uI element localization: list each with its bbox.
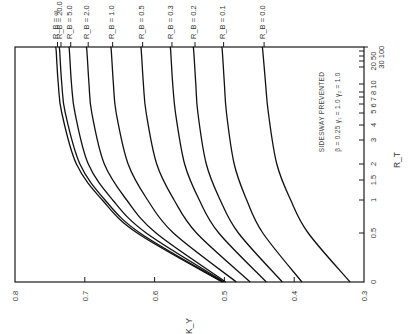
ky-tick-label: 0.8 [11, 291, 20, 301]
ky-axis: 0.30.40.50.60.70.8 [11, 277, 369, 301]
rt-tick-label: 0 [369, 280, 378, 284]
rt-tick-label: 0.5 [369, 228, 378, 238]
ky-tick-label: 0.3 [360, 291, 369, 301]
chart: 0.30.40.50.60.70.8 00.511.52345 6 7 8 10… [0, 0, 418, 334]
annotation-line2: β = 0.25 γ₁ = 1.0 γ₂ = 1.0 [334, 72, 342, 151]
rt-tick-label: 1.5 [369, 175, 378, 185]
rt-tick-label: 1 [369, 198, 378, 202]
curve-r-b-2-0 [86, 47, 226, 282]
curve-label: R_B = 0.0 [258, 5, 267, 39]
y-axis-title: K_Y [184, 318, 194, 334]
ky-tick-label: 0.6 [151, 291, 160, 301]
curve-label: R_B = 20.0 [55, 1, 64, 39]
rt-tick-label: 30 100 [377, 46, 386, 69]
curve-label: R_B = 0.5 [137, 5, 146, 39]
curves [56, 47, 351, 282]
curve-label: R_B = 0.3 [166, 5, 175, 39]
rt-tick-label: 5 6 7 8 10 [369, 80, 378, 113]
x-axis-title: R_T [392, 152, 402, 168]
annotation: SIDESWAY PREVENTED β = 0.25 γ₁ = 1.0 γ₂ … [318, 72, 342, 152]
curve-label: R_B = 2.0 [82, 5, 91, 39]
curve-label: R_B = 0.1 [218, 5, 227, 39]
rt-tick-label: 3 [369, 138, 378, 142]
curve-r-b-0-3 [170, 47, 266, 282]
curve-r-b-0-2 [193, 47, 282, 282]
curve-label: R_B = 5.0 [65, 5, 74, 39]
ky-tick-label: 0.7 [81, 291, 90, 301]
curve-r-b-5-0 [69, 47, 225, 282]
ky-tick-label: 0.5 [220, 291, 229, 301]
rt-tick-label: 2 [369, 162, 378, 166]
curve-labels: R_B = ∞R_B = 20.0R_B = 5.0R_B = 2.0R_B =… [51, 1, 267, 47]
curve-label: R_B = 0.2 [189, 5, 198, 39]
rt-tick-label: 4 [369, 123, 378, 127]
rt-axis: 00.511.52345 6 7 8 1020 5030 100 [359, 46, 386, 284]
annotation-line1: SIDESWAY PREVENTED [318, 72, 325, 152]
curve-label: R_B = 1.0 [107, 5, 116, 39]
ky-tick-label: 0.4 [290, 291, 299, 301]
curve-r-b-0-1 [222, 47, 302, 282]
curve-r-b-20-0 [59, 47, 223, 282]
